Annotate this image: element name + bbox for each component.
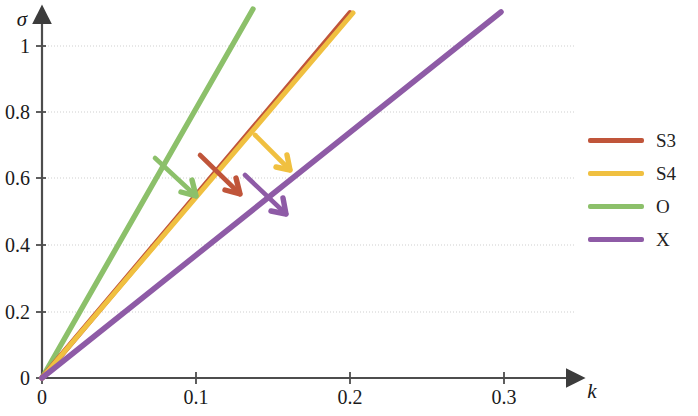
annotation-arrow-S4 xyxy=(255,135,290,170)
y-axis-label: σ xyxy=(17,7,29,31)
x-tick-label: 0 xyxy=(37,386,47,408)
annotation-arrow-O xyxy=(155,158,196,196)
y-tick-label: 1 xyxy=(20,35,30,57)
x-tick-label: 0.2 xyxy=(338,386,363,408)
series-line-X xyxy=(42,12,501,378)
legend-item-s3[interactable]: S3 xyxy=(588,124,698,157)
series-lines xyxy=(42,9,501,378)
legend-swatch-o xyxy=(588,204,644,209)
legend-label-o: O xyxy=(656,197,670,216)
y-tick-label: 0.4 xyxy=(5,234,30,256)
chart-figure: 1 0.8 0.6 0.4 0.2 0 0 0.1 0.2 0.3 σ k xyxy=(0,0,698,416)
legend-label-x: X xyxy=(656,230,670,249)
legend-label-s4: S4 xyxy=(656,164,676,183)
series-line-O xyxy=(42,9,253,378)
gridlines xyxy=(42,46,575,312)
y-tick-labels: 1 0.8 0.6 0.4 0.2 0 xyxy=(5,35,30,389)
chart-legend: S3 S4 O X xyxy=(588,124,698,256)
y-tick-label: 0.6 xyxy=(5,167,30,189)
legend-swatch-s4 xyxy=(588,171,644,176)
x-tick-label: 0.3 xyxy=(492,386,517,408)
legend-item-x[interactable]: X xyxy=(588,223,698,256)
x-axis-label: k xyxy=(587,379,597,403)
y-tick-label: 0.2 xyxy=(5,301,30,323)
axis-lines xyxy=(42,22,568,378)
x-tick-labels: 0 0.1 0.2 0.3 xyxy=(37,386,517,408)
legend-item-s4[interactable]: S4 xyxy=(588,157,698,190)
legend-swatch-s3 xyxy=(588,138,644,143)
y-tick-label: 0.8 xyxy=(5,101,30,123)
legend-item-o[interactable]: O xyxy=(588,190,698,223)
legend-swatch-x xyxy=(588,237,644,242)
x-tick-label: 0.1 xyxy=(184,386,209,408)
legend-label-s3: S3 xyxy=(656,131,676,150)
y-tick-label: 0 xyxy=(20,367,30,389)
